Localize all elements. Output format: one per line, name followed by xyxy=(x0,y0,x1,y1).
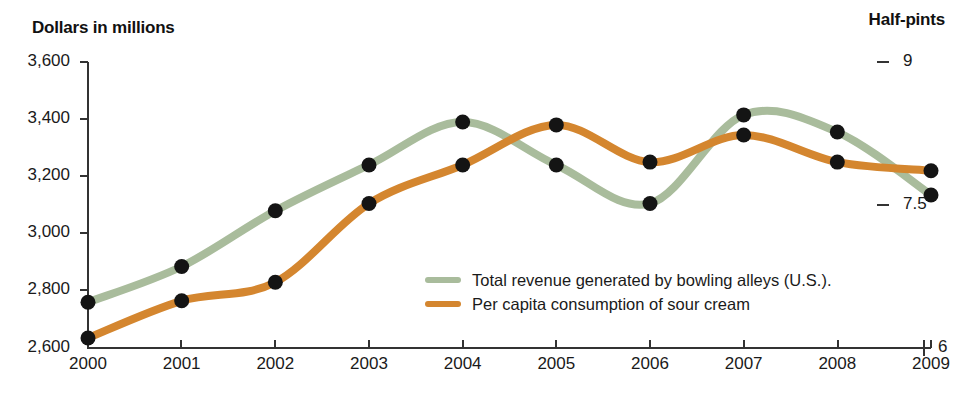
right-tick-label: 7.5 xyxy=(903,194,927,214)
data-point-marker xyxy=(81,330,96,345)
x-tick-label: 2003 xyxy=(334,354,404,374)
x-tick-label: 2000 xyxy=(53,354,123,374)
legend-item: Total revenue generated by bowling alley… xyxy=(425,268,832,292)
left-tick-label: 3,400 xyxy=(8,108,70,128)
x-axis-ticks xyxy=(88,340,931,348)
left-tick-label: 3,000 xyxy=(8,222,70,242)
data-point-marker xyxy=(81,295,96,310)
left-tick-label: 3,600 xyxy=(8,51,70,71)
plot-area xyxy=(0,0,961,398)
data-point-marker xyxy=(549,157,564,172)
legend-item: Per capita consumption of sour cream xyxy=(425,292,832,316)
data-point-marker xyxy=(830,155,845,170)
data-point-marker xyxy=(174,259,189,274)
x-tick-label: 2009 xyxy=(896,354,961,374)
data-point-marker xyxy=(362,196,377,211)
x-tick-label: 2007 xyxy=(709,354,779,374)
data-point-marker xyxy=(174,293,189,308)
legend-color-swatch xyxy=(425,301,461,307)
data-point-marker xyxy=(268,275,283,290)
chart-legend: Total revenue generated by bowling alley… xyxy=(425,268,832,316)
data-point-marker xyxy=(362,157,377,172)
x-tick-label: 2005 xyxy=(521,354,591,374)
data-point-marker xyxy=(643,155,658,170)
x-tick-label: 2002 xyxy=(240,354,310,374)
data-point-marker xyxy=(549,117,564,132)
data-point-marker xyxy=(455,115,470,130)
x-tick-label: 2001 xyxy=(147,354,217,374)
data-point-marker xyxy=(268,203,283,218)
data-point-marker xyxy=(924,163,939,178)
x-tick-label: 2004 xyxy=(428,354,498,374)
x-tick-label: 2008 xyxy=(802,354,872,374)
left-axis-ticks xyxy=(80,62,88,290)
right-tick-label: 9 xyxy=(903,51,912,71)
data-point-marker xyxy=(643,196,658,211)
left-tick-label: 2,800 xyxy=(8,279,70,299)
data-point-marker xyxy=(455,157,470,172)
legend-item-label: Total revenue generated by bowling alley… xyxy=(472,271,832,290)
legend-item-label: Per capita consumption of sour cream xyxy=(472,295,750,314)
legend-color-swatch xyxy=(425,277,461,283)
data-point-marker xyxy=(736,127,751,142)
chart-figure: Dollars in millions Half-pints xyxy=(0,0,961,398)
data-point-marker xyxy=(830,125,845,140)
data-point-marker xyxy=(736,107,751,122)
x-tick-label: 2006 xyxy=(615,354,685,374)
left-tick-label: 3,200 xyxy=(8,165,70,185)
